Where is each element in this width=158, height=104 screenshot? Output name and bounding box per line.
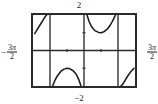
pi-symbol: π — [12, 43, 16, 52]
pi-symbol: π — [152, 43, 156, 52]
figure-container: 2 − 3π 2 3π 2 −2 — [0, 0, 158, 104]
x-axis-min-label: − 3π 2 — [1, 44, 17, 61]
x-axis-max-label-fraction: 3π 2 — [147, 44, 157, 61]
y-axis-max-label: 2 — [0, 1, 158, 10]
plot-frame — [31, 13, 137, 88]
function-plot — [33, 15, 135, 86]
x-axis-min-label-sign: − — [1, 48, 6, 57]
y-axis-min-label: −2 — [0, 94, 158, 103]
branch-upper-left — [35, 15, 47, 34]
branch-lower-right — [121, 68, 134, 86]
branch-upper-middle — [87, 15, 115, 33]
x-axis-min-label-denominator: 2 — [10, 53, 14, 61]
x-axis-min-label-fraction: 3π 2 — [7, 44, 17, 61]
branch-lower-middle — [53, 68, 81, 86]
x-axis-max-label: 3π 2 — [147, 44, 157, 61]
x-axis-max-label-denominator: 2 — [150, 53, 154, 61]
